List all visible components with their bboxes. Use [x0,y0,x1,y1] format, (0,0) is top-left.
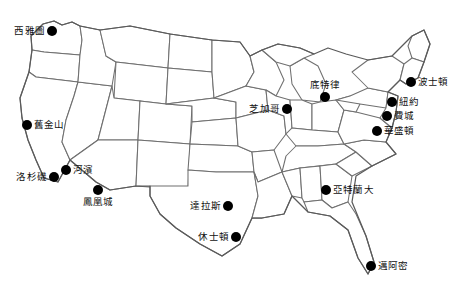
city-dot-icon [382,111,392,121]
city-label: 達拉斯 [190,200,221,211]
city-dot-icon [231,232,241,242]
city-dot-icon [387,97,397,107]
city-dot-icon [93,185,103,195]
city-dot-icon [47,26,57,36]
city-label: 紐約 [399,96,419,107]
city-label: 河濱 [73,164,93,175]
city-label: 鳳凰城 [83,196,114,207]
city-dot-icon [320,92,330,102]
city-label: 底特律 [310,79,341,90]
us-city-map: 西雅圖舊金山河濱洛杉磯鳳凰城達拉斯休士頓芝加哥底特律波士頓紐約費城華盛頓亞特蘭大… [0,0,462,294]
city-label: 舊金山 [34,119,65,130]
city-dot-icon [22,120,32,130]
city-label: 華盛頓 [384,125,415,136]
city-dot-icon [366,261,376,271]
city-dot-icon [49,172,59,182]
city-label: 波士頓 [418,76,449,87]
city-label: 亞特蘭大 [333,184,374,195]
city-dot-icon [61,165,71,175]
city-label: 休士頓 [198,231,229,242]
city-dot-icon [406,77,416,87]
city-label: 芝加哥 [249,103,280,114]
city-dot-icon [372,126,382,136]
city-dot-icon [223,201,233,211]
city-label: 洛杉磯 [16,171,47,182]
city-dot-icon [321,185,331,195]
us-map-graphic [0,0,462,294]
city-label: 邁阿密 [378,260,409,271]
city-label: 費城 [394,110,414,121]
city-dot-icon [282,104,292,114]
city-label: 西雅圖 [14,25,45,36]
